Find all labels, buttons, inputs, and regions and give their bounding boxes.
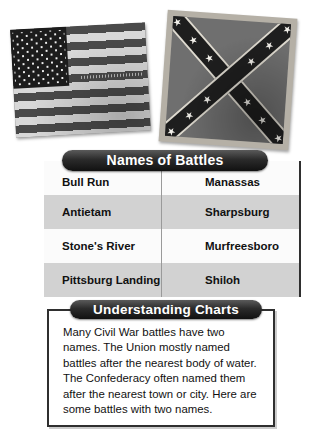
union-battle-name: Pittsburg Landing: [44, 263, 162, 297]
confederate-flag-field: ★ ★ ★ ★ ★ ★ ★ ★ ★ ★ ★ ★ ★: [165, 16, 291, 144]
us-flag-stars-row-b: [12, 30, 67, 86]
star-icon: ★: [222, 74, 235, 87]
star-icon: ★: [262, 39, 275, 52]
names-of-battles-banner: Names of Battles: [62, 150, 268, 171]
flag-illustrations: ★ ★ ★ ★ ★ ★ ★ ★ ★ ★ ★ ★ ★: [0, 0, 322, 152]
star-icon: ★: [182, 108, 195, 121]
confederate-battle-name: Sharpsburg: [162, 195, 299, 229]
confederate-battle-name: Shiloh: [162, 263, 299, 297]
star-icon: ★: [171, 16, 184, 28]
understanding-charts-banner: Understanding Charts: [70, 300, 262, 319]
united-states-flag: [10, 22, 151, 137]
table-row: Pittsburg Landing Shiloh: [44, 263, 299, 297]
star-icon: ★: [200, 93, 213, 106]
confederate-saltire-bar-b: ★ ★ ★ ★ ★ ★: [165, 16, 291, 144]
star-icon: ★: [244, 55, 257, 68]
union-battle-name: Stone's River: [44, 229, 162, 263]
star-icon: ★: [165, 124, 176, 137]
table-row: Stone's River Murfreesboro: [44, 229, 299, 263]
star-icon: ★: [241, 96, 254, 109]
confederate-battle-flag: ★ ★ ★ ★ ★ ★ ★ ★ ★ ★ ★ ★ ★: [159, 10, 298, 151]
understanding-charts-paragraph: Many Civil War battles have two names. T…: [49, 311, 273, 417]
understanding-charts-box: Many Civil War battles have two names. T…: [47, 309, 275, 427]
table-row: Antietam Sharpsburg: [44, 195, 299, 229]
star-icon: ★: [280, 23, 291, 36]
union-battle-name: Antietam: [44, 195, 162, 229]
us-flag-canton: [10, 27, 69, 89]
star-icon: ★: [203, 52, 216, 65]
star-icon: ★: [256, 114, 269, 127]
confederate-battle-name: Murfreesboro: [162, 229, 299, 263]
confederate-saltire-bar-a: ★ ★ ★ ★ ★ ★ ★: [165, 16, 291, 144]
star-icon: ★: [187, 34, 200, 47]
names-of-battles-table: Bull Run Manassas Antietam Sharpsburg St…: [44, 161, 301, 297]
star-icon: ★: [272, 132, 285, 144]
